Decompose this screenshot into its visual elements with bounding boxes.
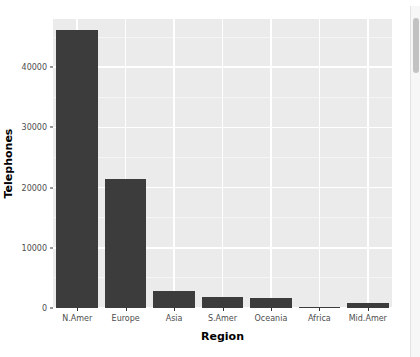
y-tick-label: 10000 [22, 243, 47, 252]
x-tick-mark [223, 308, 224, 311]
x-tick-label: N.Amer [62, 314, 92, 323]
bar[interactable] [153, 291, 195, 308]
bar[interactable] [56, 30, 98, 308]
x-tick-mark [271, 308, 272, 311]
bar[interactable] [202, 297, 244, 308]
x-tick-mark [126, 308, 127, 311]
x-tick-mark [319, 308, 320, 311]
y-axis-title-label: Telephones [2, 129, 15, 199]
gridline-major-vertical [319, 19, 321, 308]
gridline-major-vertical [222, 19, 224, 308]
vertical-scrollbar-thumb[interactable] [413, 18, 419, 73]
y-axis-title: Telephones [0, 0, 17, 327]
vertical-scrollbar-track[interactable] [410, 6, 420, 357]
x-tick-mark [174, 308, 175, 311]
gridline-major-vertical [173, 19, 175, 308]
y-tick-label: 40000 [22, 63, 47, 72]
bar-chart: Telephones 010000200003000040000 N.AmerE… [0, 0, 420, 357]
plot-panel [53, 19, 392, 308]
gridline-major-vertical [367, 19, 369, 308]
y-tick-label: 0 [42, 304, 47, 313]
x-axis: N.AmerEuropeAsiaS.AmerOceaniaAfricaMid.A… [53, 308, 392, 330]
y-axis: 010000200003000040000 [17, 19, 53, 309]
x-tick-mark [77, 308, 78, 311]
x-tick-label: S.Amer [208, 314, 237, 323]
gridline-major-vertical [270, 19, 272, 308]
bar[interactable] [105, 179, 147, 308]
x-tick-label: Asia [166, 314, 183, 323]
y-tick-label: 30000 [22, 123, 47, 132]
y-tick-label: 20000 [22, 183, 47, 192]
x-axis-title: Region [53, 330, 392, 343]
x-tick-label: Africa [308, 314, 331, 323]
x-tick-label: Oceania [255, 314, 288, 323]
x-tick-label: Mid.Amer [349, 314, 387, 323]
x-tick-label: Europe [112, 314, 140, 323]
bar[interactable] [250, 298, 292, 308]
x-tick-mark [368, 308, 369, 311]
